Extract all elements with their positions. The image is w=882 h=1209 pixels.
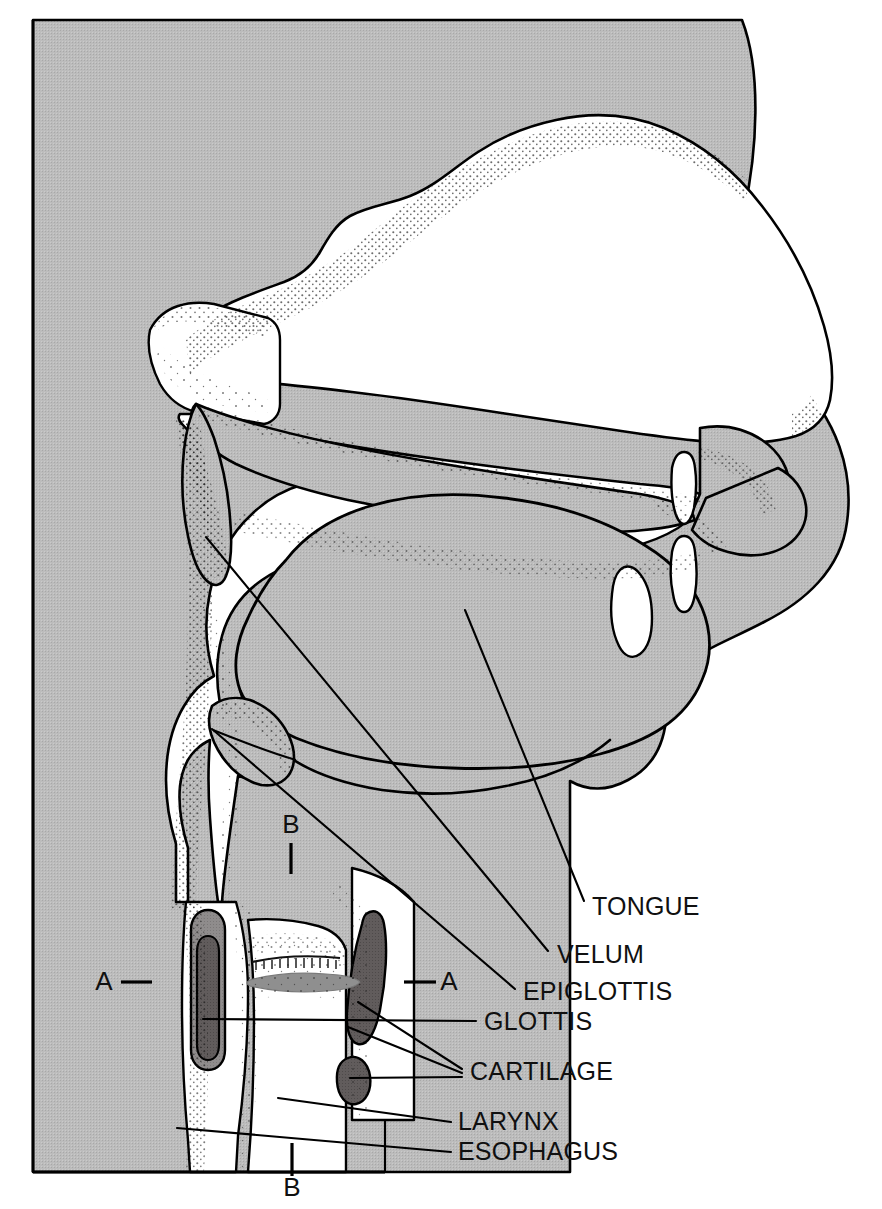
cartilage-leader-3 bbox=[350, 1077, 462, 1078]
section-marker-b-top: B bbox=[282, 809, 299, 839]
section-marker-b-bottom: B bbox=[283, 1172, 300, 1202]
label-cartilage: CARTILAGE bbox=[470, 1057, 613, 1085]
label-tongue: TONGUE bbox=[592, 892, 700, 920]
label-glottis: GLOTTIS bbox=[484, 1007, 592, 1035]
label-epiglottis: EPIGLOTTIS bbox=[523, 977, 672, 1005]
label-velum: VELUM bbox=[557, 940, 644, 968]
label-esophagus: ESOPHAGUS bbox=[458, 1137, 618, 1165]
section-marker-a-left: A bbox=[95, 966, 113, 996]
diagram-canvas: A A B B TONGUE VELUM EPIGLOTTIS GLOTTIS … bbox=[0, 0, 882, 1209]
section-marker-a-right: A bbox=[440, 966, 458, 996]
label-larynx: LARYNX bbox=[458, 1107, 559, 1135]
vocal-tract-diagram: A A B B TONGUE VELUM EPIGLOTTIS GLOTTIS … bbox=[0, 0, 882, 1209]
